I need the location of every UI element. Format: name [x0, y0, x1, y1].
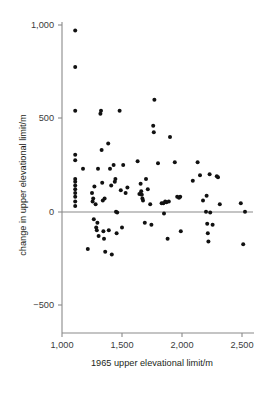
data-point — [73, 109, 77, 113]
data-point — [125, 185, 129, 189]
data-point — [106, 142, 110, 146]
data-point — [208, 172, 212, 176]
y-tick-marks — [58, 25, 62, 305]
data-point — [205, 194, 209, 198]
scatter-plot-figure: 1,000 500 0 −500 1,000 1,500 2,000 2,500… — [0, 0, 257, 395]
data-point — [73, 184, 77, 188]
x-axis-title: 1965 upper elevational limit/m — [91, 358, 213, 368]
data-point — [73, 187, 77, 191]
data-point — [166, 237, 170, 241]
data-point — [168, 135, 172, 139]
x-tick-marks — [62, 333, 242, 337]
data-point — [205, 222, 209, 226]
data-point — [73, 204, 77, 208]
data-point — [120, 226, 124, 230]
y-axis-title: change in upper elevational limit/m — [18, 114, 28, 256]
data-point — [86, 247, 90, 251]
y-tick-label-0: 0 — [49, 207, 54, 217]
x-tick-label-1500: 1,500 — [111, 340, 134, 350]
y-tick-label-500: 500 — [39, 113, 54, 123]
data-point — [124, 191, 128, 195]
x-tick-label-2000: 2,000 — [171, 340, 194, 350]
data-point — [101, 229, 105, 233]
data-point — [173, 160, 177, 164]
data-point — [103, 197, 107, 201]
data-point — [73, 199, 77, 203]
data-point — [139, 189, 143, 193]
data-point — [73, 65, 77, 69]
data-point — [179, 229, 183, 233]
x-tick-label-2500: 2,500 — [231, 340, 254, 350]
data-point — [102, 237, 106, 241]
data-point — [73, 180, 77, 184]
data-point — [152, 98, 156, 102]
data-point — [95, 228, 99, 232]
data-point — [144, 177, 148, 181]
data-point — [218, 202, 222, 206]
data-point — [216, 175, 220, 179]
data-point — [152, 130, 156, 134]
data-point — [206, 231, 210, 235]
data-point — [115, 211, 119, 215]
data-point — [73, 153, 77, 157]
data-point — [156, 161, 160, 165]
data-point — [141, 198, 145, 202]
y-tick-label-1000: 1,000 — [31, 20, 54, 30]
data-point — [167, 199, 171, 203]
data-point — [139, 182, 143, 186]
data-point — [96, 167, 100, 171]
data-point — [201, 198, 205, 202]
data-point — [73, 29, 77, 33]
data-point — [196, 160, 200, 164]
chart-canvas: 1,000 500 0 −500 1,000 1,500 2,000 2,500… — [0, 0, 257, 395]
data-point — [90, 191, 94, 195]
data-point — [178, 195, 182, 199]
data-point — [99, 109, 103, 113]
data-point — [204, 210, 208, 214]
data-point — [112, 163, 116, 167]
data-point — [108, 167, 112, 171]
data-point — [121, 163, 125, 167]
data-point — [198, 173, 202, 177]
data-point — [211, 223, 215, 227]
data-point — [103, 250, 107, 254]
data-point — [95, 221, 99, 225]
data-point — [136, 159, 140, 163]
data-point — [91, 197, 95, 201]
data-point — [92, 217, 96, 221]
data-point — [113, 177, 117, 181]
x-tick-label-1000: 1,000 — [51, 340, 74, 350]
data-point — [100, 181, 104, 185]
y-tick-label-minus500: −500 — [33, 300, 54, 310]
data-point — [191, 179, 195, 183]
data-point — [109, 184, 113, 188]
data-point — [239, 201, 243, 205]
data-point — [149, 223, 153, 227]
data-point — [162, 212, 166, 216]
data-point — [73, 158, 77, 162]
data-point — [146, 187, 150, 191]
data-point — [119, 188, 123, 192]
data-point — [151, 124, 155, 128]
data-point — [140, 193, 144, 197]
data-points-layer — [73, 29, 247, 257]
data-point — [97, 234, 101, 238]
data-point — [118, 109, 122, 113]
data-point — [73, 195, 77, 199]
data-point — [73, 191, 77, 195]
data-point — [94, 202, 98, 206]
data-point — [110, 253, 114, 257]
data-point — [243, 210, 247, 214]
data-point — [208, 211, 212, 215]
data-point — [81, 167, 85, 171]
data-point — [92, 184, 96, 188]
data-point — [206, 240, 210, 244]
data-point — [100, 148, 104, 152]
data-point — [143, 221, 147, 225]
data-point — [241, 242, 245, 246]
data-point — [107, 228, 111, 232]
data-point — [148, 202, 152, 206]
data-point — [115, 231, 119, 235]
